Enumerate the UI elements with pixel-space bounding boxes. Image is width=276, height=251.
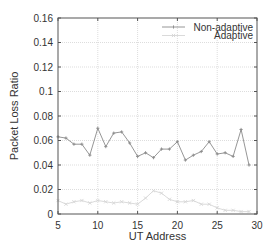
x-axis-label: UT Address [129,230,187,242]
y-tick-label: 0.16 [34,13,54,24]
plot-frame [58,18,257,214]
y-tick-label: 0.02 [34,184,54,195]
y-axis-ticks: 00.020.040.060.080.10.120.140.16 [34,13,257,220]
y-tick-label: 0 [47,209,53,220]
x-tick-label: 5 [55,220,61,231]
x-tick-label: 30 [251,220,263,231]
y-tick-label: 0.1 [39,86,53,97]
y-tick-label: 0.08 [34,111,54,122]
line-chart: 00.020.040.060.080.10.120.140.16 5101520… [0,0,276,251]
series-adaptive [56,189,250,213]
series-non-adaptive [56,127,250,167]
x-tick-label: 10 [92,220,104,231]
legend-label: Adaptive [214,30,253,41]
y-axis-label: Packet Loss Ratio [8,72,20,161]
x-tick-label: 25 [212,220,224,231]
y-tick-label: 0.06 [34,135,54,146]
y-tick-label: 0.12 [34,62,54,73]
legend: Non-adaptiveAdaptive [162,22,253,42]
y-tick-label: 0.04 [34,160,54,171]
grid-lines [58,18,257,214]
y-tick-label: 0.14 [34,37,54,48]
data-series [56,127,250,213]
x-axis-ticks: 51015202530 [55,18,263,231]
